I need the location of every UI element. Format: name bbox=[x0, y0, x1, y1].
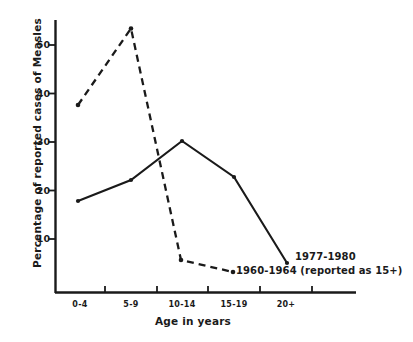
series-line-1977-1980 bbox=[76, 139, 289, 265]
y-axis-ticks bbox=[48, 45, 55, 239]
plot-canvas bbox=[0, 0, 413, 342]
series-line-1960-1964 bbox=[76, 26, 236, 274]
measles-age-distribution-chart: Percentage of reported cases of Measles … bbox=[0, 0, 413, 342]
